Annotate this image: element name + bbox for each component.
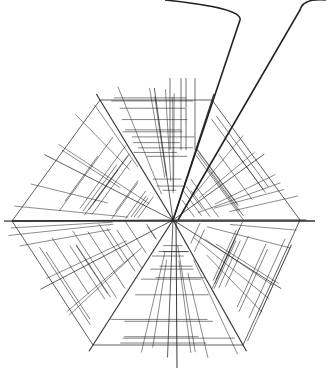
spider-web-drawing: Pen line drawing of a hexagonal spider w… [0, 0, 326, 384]
web-illustration [0, 0, 326, 384]
